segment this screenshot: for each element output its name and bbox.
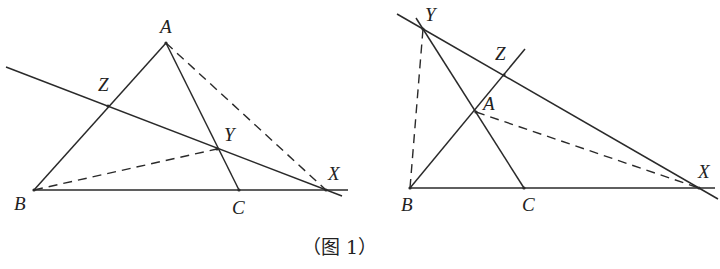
point-label-z: Z <box>495 43 506 64</box>
point-label-b: B <box>14 193 26 214</box>
point-x-marker <box>324 188 327 191</box>
solid-line <box>416 18 524 188</box>
point-label-a: A <box>158 16 172 37</box>
solid-line <box>34 43 166 190</box>
point-z-marker <box>106 104 109 107</box>
solid-line <box>410 49 525 188</box>
point-a-marker <box>164 41 167 44</box>
point-b-marker <box>408 186 411 189</box>
point-c-marker <box>237 188 240 191</box>
point-b-marker <box>32 188 35 191</box>
figure-caption: （图 1） <box>302 236 377 258</box>
point-y-marker <box>215 147 218 150</box>
point-z-marker <box>502 73 505 76</box>
figure-right: ABCXYZ <box>397 4 718 215</box>
solid-line <box>397 14 718 199</box>
point-label-z: Z <box>98 74 109 95</box>
point-a-marker <box>474 110 477 113</box>
solid-line <box>166 43 239 190</box>
dashed-line <box>410 29 423 188</box>
point-label-y: Y <box>224 124 237 145</box>
point-c-marker <box>522 186 525 189</box>
point-label-b: B <box>401 194 413 215</box>
point-y-marker <box>421 27 424 30</box>
point-label-x: X <box>697 161 711 182</box>
point-label-y: Y <box>425 4 438 25</box>
point-x-marker <box>697 186 700 189</box>
point-label-a: A <box>481 93 495 114</box>
dashed-line <box>166 43 326 190</box>
figure-left: ABCXYZ <box>6 16 348 218</box>
geometry-diagram: ABCXYZ ABCXYZ （图 1） <box>0 0 720 269</box>
solid-line <box>6 67 342 196</box>
dashed-line <box>34 149 217 190</box>
point-label-c: C <box>232 197 245 218</box>
point-label-c: C <box>522 194 535 215</box>
point-label-x: X <box>327 163 341 184</box>
